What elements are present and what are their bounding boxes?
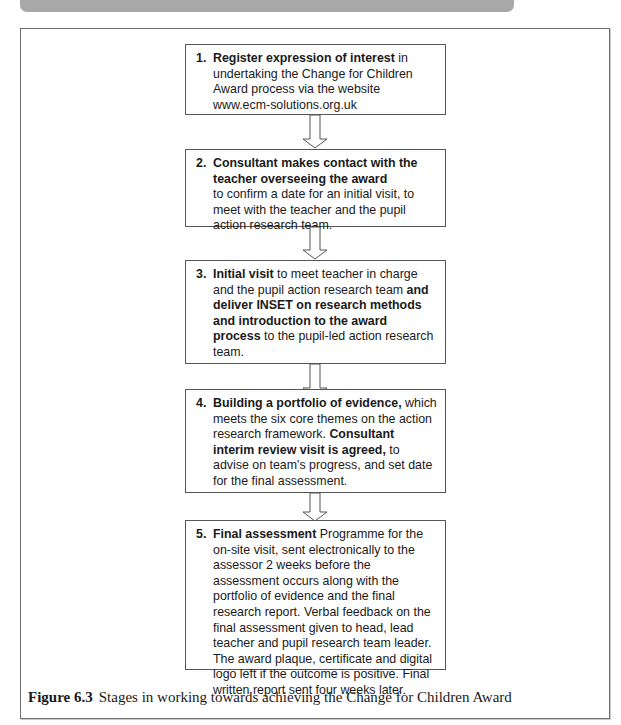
step-number: 4. xyxy=(196,396,206,412)
step-number: 2. xyxy=(196,156,206,172)
step-text: Programme for the on-site visit, sent el… xyxy=(213,527,432,697)
step-title: Initial visit xyxy=(213,267,274,281)
step-2-box: 2. Consultant makes contact with the tea… xyxy=(185,149,446,227)
step-number: 5. xyxy=(196,527,206,543)
step-title: Consultant makes contact with the teache… xyxy=(213,156,437,187)
step-title: Building a portfolio of evidence, xyxy=(213,396,402,410)
step-5-box: 5. Final assessment Programme for the on… xyxy=(185,520,446,670)
step-title: Register expression of interest xyxy=(213,51,395,65)
step-number: 1. xyxy=(196,51,206,67)
step-number: 3. xyxy=(196,267,206,283)
step-text: to confirm a date for an initial visit, … xyxy=(213,187,414,232)
figure-caption-text: Stages in working towards achieving the … xyxy=(99,689,512,705)
hollow-down-arrow-icon xyxy=(300,493,330,522)
step-4-box: 4. Building a portfolio of evidence, whi… xyxy=(185,389,446,493)
figure-label: Figure 6.3 xyxy=(28,689,93,705)
step-title: Final assessment xyxy=(213,527,316,541)
figure-caption: Figure 6.3Stages in working towards achi… xyxy=(28,689,512,706)
hollow-down-arrow-icon xyxy=(300,227,330,260)
running-header-bar: THE CHANGE FOR CHILDREN AWARD xyxy=(20,0,514,12)
step-3-box: 3. Initial visit to meet teacher in char… xyxy=(185,260,446,364)
step-1-box: 1. Register expression of interest in un… xyxy=(185,44,446,115)
running-header-text: THE CHANGE FOR CHILDREN AWARD xyxy=(20,0,514,2)
hollow-down-arrow-icon xyxy=(300,115,330,149)
